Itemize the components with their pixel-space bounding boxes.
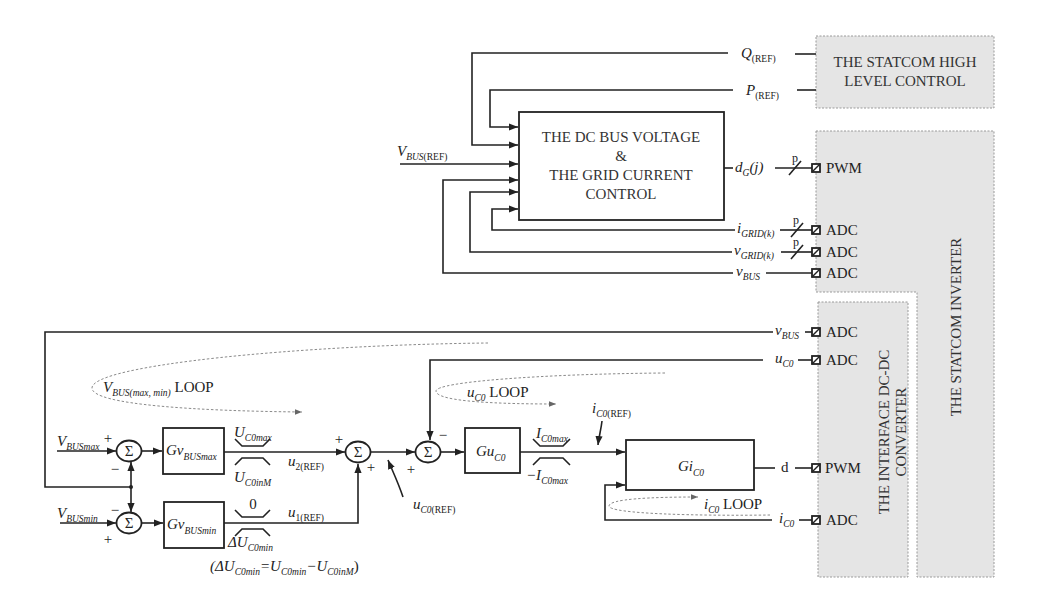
high-level-control-title-line1: THE STATCOM HIGH bbox=[834, 54, 977, 70]
dg-j-label: dG(j) bbox=[735, 159, 764, 178]
v-bus-inverter-label: vBUS bbox=[736, 263, 760, 282]
i-c0-label: iC0 bbox=[779, 510, 795, 529]
v-grid-label: vGRID(k) bbox=[734, 242, 774, 262]
port-label: PWM bbox=[825, 460, 861, 476]
sigma-icon: Σ bbox=[125, 515, 134, 531]
vbus-loop-label: VBUS(max, min) LOOP bbox=[103, 379, 214, 399]
neg-ic0max-label: −IC0max bbox=[526, 467, 569, 486]
plus-sign: + bbox=[104, 430, 112, 446]
i-grid-label: iGRID(k) bbox=[737, 220, 774, 240]
plus-sign: + bbox=[104, 531, 112, 547]
delta-formula: (ΔUC0min=UC0min−UC0inM) bbox=[210, 558, 359, 577]
vbus-max-label: VBUSmax bbox=[57, 433, 100, 452]
statcom-inverter-title: THE STATCOM INVERTER bbox=[948, 238, 964, 417]
limiter-lower-icon bbox=[235, 458, 270, 465]
dc-bus-control-line3: THE GRID CURRENT bbox=[549, 167, 692, 183]
dc-bus-control-line4: CONTROL bbox=[586, 186, 657, 202]
uc0-ref-label: uC0(REF) bbox=[413, 496, 455, 516]
ic0-loop-label: iC0 LOOP bbox=[704, 496, 762, 515]
v-bus-converter-label: vBUS bbox=[775, 322, 799, 341]
plus-sign: + bbox=[407, 461, 415, 477]
q-ref-label: Q(REF) bbox=[741, 45, 776, 65]
port-label: PWM bbox=[826, 160, 862, 176]
minus-sign: − bbox=[111, 502, 119, 518]
vbus-ref-label: VBUS(REF) bbox=[397, 143, 447, 163]
limiter-lower-icon bbox=[533, 458, 570, 465]
bus-width-label: p bbox=[793, 235, 799, 249]
bus-width-label: p bbox=[793, 213, 799, 227]
u1-ref-label: u1(REF) bbox=[288, 504, 324, 524]
sigma-icon: Σ bbox=[125, 443, 134, 459]
u2-ref-label: u2(REF) bbox=[288, 453, 324, 473]
vbus-min-label: VBUSmin bbox=[57, 505, 98, 524]
minus-sign: − bbox=[111, 461, 119, 477]
port-label: ADC bbox=[826, 324, 858, 340]
statcom-control-diagram: THE STATCOM HIGH LEVEL CONTROL THE STATC… bbox=[0, 0, 1037, 607]
plus-sign: + bbox=[335, 431, 343, 447]
uc0max-label: UC0max bbox=[234, 424, 273, 443]
uc0-loop-label: uC0 LOOP bbox=[467, 384, 529, 403]
port-label: ADC bbox=[826, 244, 858, 260]
port-label: ADC bbox=[826, 512, 858, 528]
p-ref-label: P(REF) bbox=[745, 82, 779, 102]
port-label: ADC bbox=[826, 265, 858, 281]
delta-uc0min-label: ΔUC0min bbox=[227, 534, 273, 553]
interface-converter-title-line2: CONVERTER bbox=[893, 387, 909, 476]
d-label: d bbox=[781, 459, 789, 475]
statcom-high-level-control-module bbox=[816, 36, 994, 108]
minus-sign: − bbox=[439, 427, 447, 443]
dc-bus-control-line2: & bbox=[615, 148, 627, 164]
ic0-ref-label: iC0(REF) bbox=[592, 400, 631, 420]
uc0inm-label: UC0inM bbox=[234, 469, 272, 488]
sigma-icon: Σ bbox=[354, 444, 363, 460]
dc-bus-control-line1: THE DC BUS VOLTAGE bbox=[542, 129, 700, 145]
interface-converter-title-line1: THE INTERFACE DC-DC bbox=[876, 350, 892, 515]
bus-width-label: p bbox=[792, 151, 798, 165]
ic0max-label: IC0max bbox=[535, 425, 569, 444]
high-level-control-title-line2: LEVEL CONTROL bbox=[844, 73, 966, 89]
vbus-loop-path bbox=[92, 343, 488, 412]
sigma-icon: Σ bbox=[424, 444, 433, 460]
ic0-ref-pointer bbox=[598, 421, 602, 445]
u-c0-label: uC0 bbox=[775, 350, 794, 369]
port-label: ADC bbox=[826, 222, 858, 238]
uc0-ref-pointer bbox=[388, 460, 403, 497]
plus-sign: + bbox=[367, 459, 375, 475]
zero-limit-label: 0 bbox=[249, 496, 257, 512]
port-label: ADC bbox=[826, 352, 858, 368]
